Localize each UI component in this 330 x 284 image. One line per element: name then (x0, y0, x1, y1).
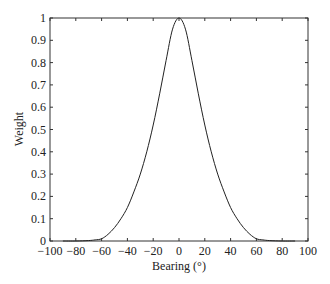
x-tick-label: 20 (199, 244, 211, 258)
y-tick-label: 0.1 (31, 212, 46, 226)
x-axis-ticks: −100−80−60−40−20020406080100 (38, 18, 317, 258)
x-tick-label: −60 (92, 244, 111, 258)
x-axis-label: Bearing (°) (152, 259, 206, 273)
y-tick-label: 0.5 (31, 123, 46, 137)
y-axis-ticks: 00.10.20.30.40.50.60.70.80.91 (31, 11, 308, 248)
y-tick-label: 0 (40, 234, 46, 248)
x-tick-label: 0 (176, 244, 182, 258)
y-tick-label: 0.3 (31, 167, 46, 181)
bearing-weight-chart: −100−80−60−40−20020406080100 00.10.20.30… (0, 0, 330, 284)
plot-frame (50, 18, 308, 241)
x-tick-label: 100 (299, 244, 317, 258)
x-tick-label: −40 (118, 244, 137, 258)
x-tick-label: −20 (144, 244, 163, 258)
y-tick-label: 0.2 (31, 189, 46, 203)
y-tick-label: 0.9 (31, 33, 46, 47)
y-tick-label: 0.8 (31, 56, 46, 70)
y-tick-label: 0.7 (31, 78, 46, 92)
x-tick-label: −80 (66, 244, 85, 258)
y-tick-label: 0.4 (31, 145, 46, 159)
weight-curve (63, 18, 295, 241)
y-tick-label: 1 (40, 11, 46, 25)
x-tick-label: 40 (225, 244, 237, 258)
y-tick-label: 0.6 (31, 100, 46, 114)
plot-area (50, 18, 308, 241)
x-tick-label: 60 (250, 244, 262, 258)
x-tick-label: 80 (276, 244, 288, 258)
y-axis-label: Weight (12, 111, 26, 146)
